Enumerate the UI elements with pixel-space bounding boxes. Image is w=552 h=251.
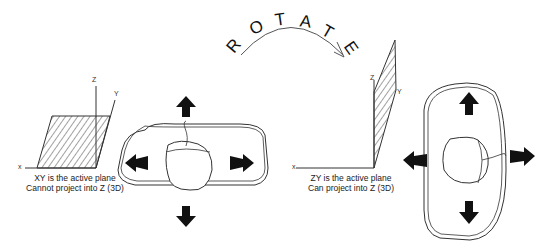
right-axis-x-label: x — [292, 163, 296, 170]
arrow-left-icon — [403, 151, 427, 170]
right-axis-y-label: Y — [397, 88, 402, 95]
left-caption-line2: Cannot project into Z (3D) — [20, 183, 130, 193]
arrow-left-icon — [125, 154, 148, 172]
right-caption: ZY is the active plane Can project into … — [296, 173, 406, 193]
left-caption: XY is the active plane Cannot project in… — [20, 173, 130, 193]
arrow-down-icon — [459, 201, 479, 224]
right-caption-line2: Can project into Z (3D) — [296, 183, 406, 193]
left-caption-line1: XY is the active plane — [20, 173, 130, 183]
arrow-right-icon — [510, 147, 535, 166]
diagram-canvas — [0, 0, 552, 251]
arrow-up-icon — [459, 92, 479, 115]
left-axis-z-label: Z — [92, 76, 96, 83]
arrow-right-icon — [230, 154, 254, 172]
mouse-pad-horizontal-icon — [118, 121, 268, 190]
arrow-up-icon — [176, 96, 196, 117]
zy-plane-diagram — [296, 40, 396, 168]
xy-plane-diagram — [25, 86, 115, 168]
arrow-down-icon — [176, 206, 196, 227]
right-axis-z-label: Z — [370, 74, 374, 81]
left-axis-y-label: Y — [114, 90, 119, 97]
right-caption-line1: ZY is the active plane — [296, 173, 406, 183]
left-axis-x-label: x — [18, 163, 22, 170]
